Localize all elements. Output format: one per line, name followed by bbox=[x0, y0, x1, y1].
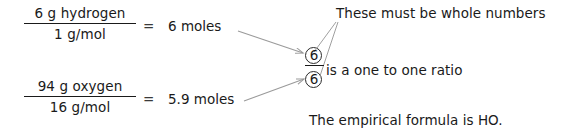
hydrogen-denominator: 1 g/mol bbox=[24, 26, 136, 41]
arrow-hydrogen-to-ratio bbox=[238, 31, 303, 53]
empirical-formula-figure: 6 g hydrogen 1 g/mol = 6 moles 94 g oxyg… bbox=[0, 0, 583, 139]
ratio-fraction-bar bbox=[305, 65, 324, 66]
oxygen-fraction: 94 g oxygen 16 g/mol bbox=[24, 79, 136, 114]
oxygen-equals-sign: = bbox=[143, 91, 154, 107]
circled-ratio-denominator: 6 bbox=[299, 71, 329, 88]
hydrogen-fraction-bar bbox=[24, 23, 136, 24]
arrow-oxygen-to-ratio bbox=[244, 79, 304, 101]
ratio-denominator-digit: 6 bbox=[310, 71, 319, 87]
whole-numbers-note: These must be whole numbers bbox=[336, 5, 546, 21]
ratio-caption: is a one to one ratio bbox=[326, 62, 463, 78]
hydrogen-result: 6 moles bbox=[168, 18, 221, 34]
conclusion-note: The empirical formula is HO. bbox=[309, 112, 503, 128]
hydrogen-fraction: 6 g hydrogen 1 g/mol bbox=[24, 6, 136, 41]
hydrogen-numerator: 6 g hydrogen bbox=[24, 6, 136, 22]
circled-ratio-numerator: 6 bbox=[299, 47, 329, 64]
hydrogen-equals-sign: = bbox=[143, 18, 154, 34]
ratio-fraction: 6 6 bbox=[299, 47, 329, 88]
oxygen-result: 5.9 moles bbox=[168, 91, 234, 107]
oxygen-numerator: 94 g oxygen bbox=[24, 79, 136, 95]
oxygen-fraction-bar bbox=[24, 96, 136, 97]
oxygen-denominator: 16 g/mol bbox=[24, 99, 136, 114]
ratio-numerator-digit: 6 bbox=[310, 47, 319, 63]
